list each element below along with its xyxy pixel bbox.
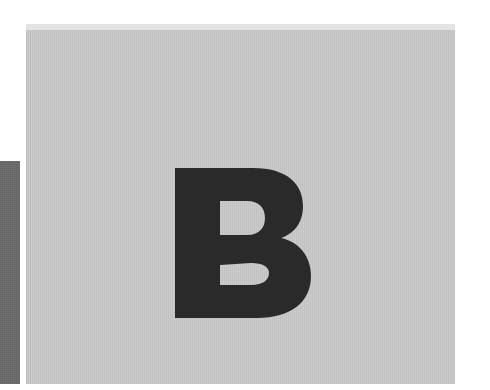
letter-b-glyph: B [175,168,311,318]
letter-b-icon [175,168,311,318]
left-dark-strip [0,161,20,384]
